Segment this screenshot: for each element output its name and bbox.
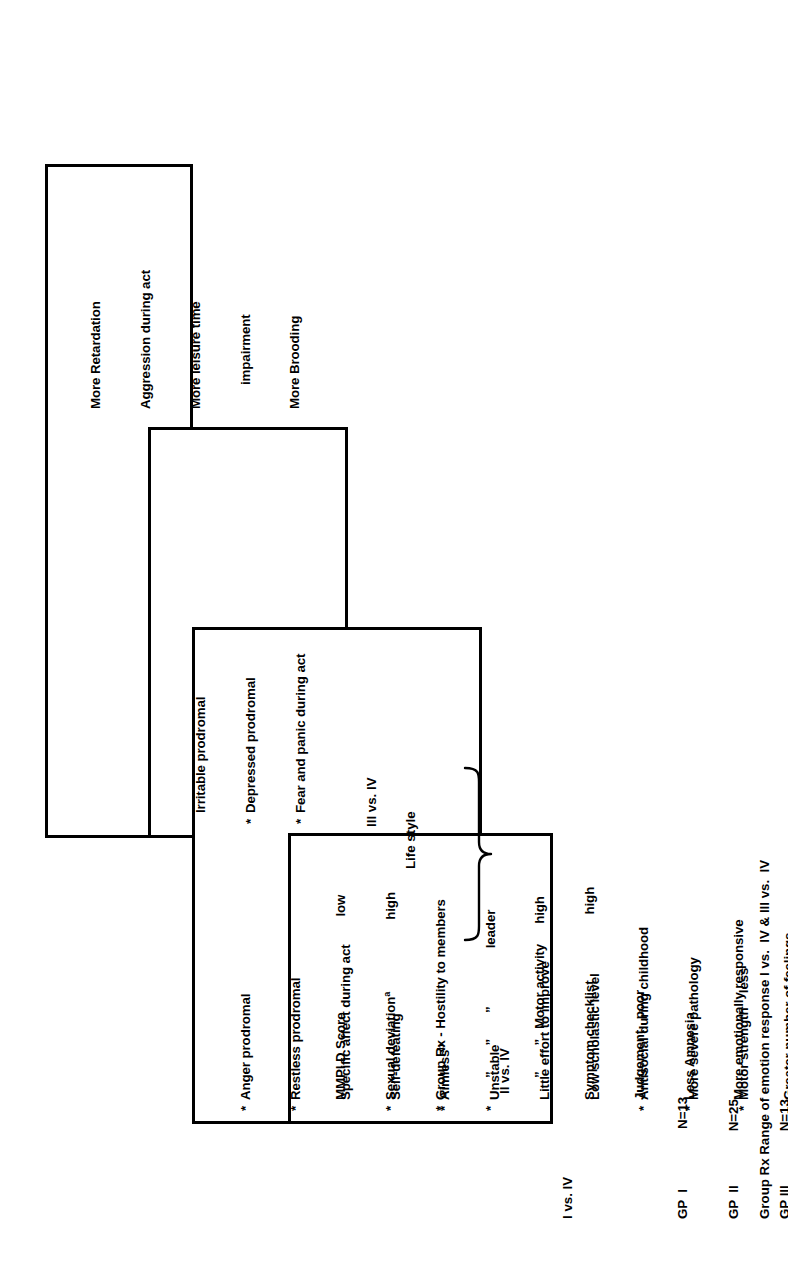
comparison-label-iii-vs-iv: III vs. IV	[364, 777, 379, 827]
group-iv-line: More Brooding	[287, 159, 304, 409]
bottom-notes-block: Group Rx Range of emotion response I vs.…	[722, 119, 788, 1219]
group-ii-line: Low scholastic level	[587, 791, 604, 1111]
group-rx-range-line: Group Rx Range of emotion response I vs.…	[756, 119, 773, 1219]
group-iii-line: *Fear and panic during act	[293, 524, 310, 824]
group-ii-line: Self-defeating	[388, 791, 405, 1111]
group-iv-line: More Retardation	[88, 159, 105, 409]
group-iii-text-block: Irritable prodromal *Depressed prodromal…	[160, 524, 343, 824]
table-row: GP IN=13	[674, 1094, 691, 1219]
figure-canvas: MMPI D Scorelow *Sexual deviationahigh *…	[0, 0, 788, 1279]
group-iii-line: Irritable prodromal	[193, 524, 210, 824]
comparison-label-ii-vs-iv: II vs. IV	[497, 1048, 512, 1094]
group-ii-line: Specific affect during act	[338, 791, 355, 1111]
life-style-label: Life style	[403, 811, 418, 869]
group-iii-line: *Depressed prodromal	[243, 524, 260, 824]
group-iv-line: More leisure time	[188, 159, 205, 409]
group-ii-line: *Antisocial during childhood	[636, 791, 653, 1111]
group-ii-line: *Aimlessb	[437, 791, 454, 1111]
comparison-label-i-vs-iv: I vs. IV	[560, 1177, 575, 1219]
group-iv-text-block: More Retardation Aggression during act M…	[55, 159, 337, 409]
life-style-brace-group: Life style	[405, 644, 485, 824]
group-ii-line: *Restless prodromal	[288, 791, 305, 1111]
group-ii-line: Little effort to improve	[537, 791, 554, 1111]
rotated-page-wrapper: MMPI D Scorelow *Sexual deviationahigh *…	[0, 0, 788, 1279]
curly-brace-icon	[461, 764, 505, 944]
group-iv-line: impairment	[238, 159, 255, 409]
group-ii-line: More severe pathology	[686, 791, 703, 1111]
group-iv-line: Aggression during act	[138, 159, 155, 409]
group-ii-line: *Anger prodromal	[238, 791, 255, 1111]
